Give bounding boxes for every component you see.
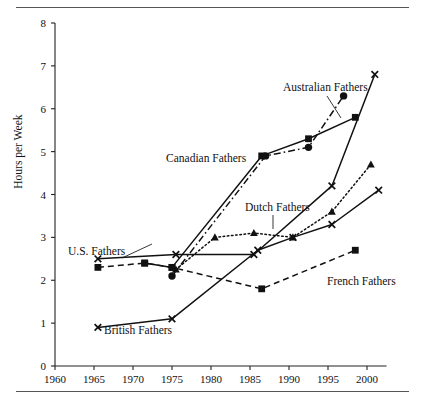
x-tick-label: 1985 [239,373,262,385]
data-point-triangle [211,233,219,240]
data-point-square [169,264,176,271]
x-tick-label: 2000 [356,373,379,385]
series-line [98,190,379,327]
data-point-square [305,135,312,142]
british-fathers-label: British Fathers [104,324,173,336]
x-tick-label: 1965 [83,373,106,385]
dutch-fathers-label: Dutch Fathers [245,201,310,213]
data-point-circle [168,272,175,279]
data-point-x [329,183,336,190]
canadian-fathers-label: Canadian Fathers [166,152,247,164]
series-line [172,96,344,276]
series-u-s-fathers [95,71,379,262]
y-tick-label: 7 [41,60,47,72]
data-point-x [255,247,262,254]
x-tick-label: 1995 [317,373,340,385]
data-point-triangle [328,208,336,215]
y-tick-label: 0 [41,360,47,372]
data-point-triangle [250,229,258,236]
us-fathers-label: U.S. Fathers [68,245,126,257]
french-fathers-label: French Fathers [327,275,396,287]
data-point-circle [340,92,347,99]
data-point-triangle [367,160,375,167]
line-chart: 0123456781960196519701975198019851990199… [0,0,425,402]
series-canadian-fathers [141,114,358,271]
x-tick-label: 1970 [122,373,145,385]
data-point-square [352,247,359,254]
series-line [98,74,375,258]
series-french-fathers [95,247,359,292]
x-tick-label: 1975 [161,373,184,385]
y-tick-label: 2 [41,274,47,286]
x-tick-label: 1990 [278,373,301,385]
y-tick-label: 4 [41,189,47,201]
y-tick-label: 8 [41,17,47,29]
axes: 0123456781960196519701975198019851990199… [12,17,387,385]
y-tick-label: 6 [41,103,47,115]
australian-fathers-label-leader [327,96,341,118]
data-point-circle [305,144,312,151]
data-point-circle [262,152,269,159]
y-axis-title: Hours per Week [12,114,25,188]
series-british-fathers [95,187,382,331]
data-point-square [258,285,265,292]
y-tick-label: 1 [41,317,47,329]
australian-fathers-label: Australian Fathers [283,81,368,93]
y-tick-label: 5 [41,146,47,158]
chart-figure: 0123456781960196519701975198019851990199… [0,0,425,402]
x-tick-label: 1960 [44,373,67,385]
data-point-square [141,260,148,267]
x-tick-label: 1980 [200,373,223,385]
data-point-x [375,187,382,194]
data-point-x [372,71,379,78]
y-tick-label: 3 [41,231,47,243]
data-point-square [95,264,102,271]
data-point-square [352,114,359,121]
